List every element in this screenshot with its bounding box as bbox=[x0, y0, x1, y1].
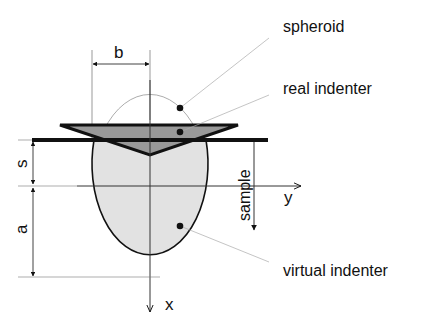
indenter-diagram: spheroid real indenter virtual indenter … bbox=[0, 0, 422, 329]
y-axis-label: y bbox=[284, 188, 293, 207]
b-label: b bbox=[114, 43, 123, 62]
x-axis-label: x bbox=[165, 295, 174, 314]
spheroid-label: spheroid bbox=[283, 18, 344, 35]
virtual-indenter-label: virtual indenter bbox=[283, 262, 389, 279]
s-label: s bbox=[12, 160, 31, 169]
a-label: a bbox=[12, 224, 31, 234]
real-indenter-label: real indenter bbox=[283, 80, 373, 97]
sample-label: sample bbox=[236, 169, 253, 221]
